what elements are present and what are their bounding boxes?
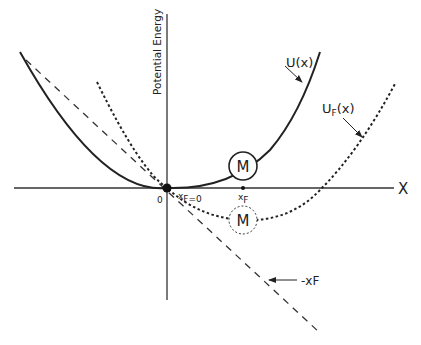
mass-label: M	[237, 158, 250, 176]
origin-label: 0	[157, 195, 163, 205]
xF-point	[241, 186, 245, 190]
potential-curve-U	[20, 52, 320, 188]
UF-label: UF(x)	[322, 101, 355, 118]
potential-energy-diagram: Potential Energy X 0 xF=0 xF M M U(x) UF…	[0, 0, 421, 345]
xF-label: xF	[238, 192, 249, 205]
force-potential-line	[26, 60, 320, 333]
force-line-label: -xF	[301, 274, 319, 288]
UF-arrow	[343, 118, 362, 137]
U-label: U(x)	[286, 55, 313, 70]
mass-shifted-label: M	[237, 212, 250, 230]
origin-point	[163, 184, 172, 193]
x-axis-label: X	[398, 180, 408, 198]
y-axis-label: Potential Energy	[151, 9, 163, 95]
xF0-label: xF=0	[178, 191, 202, 204]
